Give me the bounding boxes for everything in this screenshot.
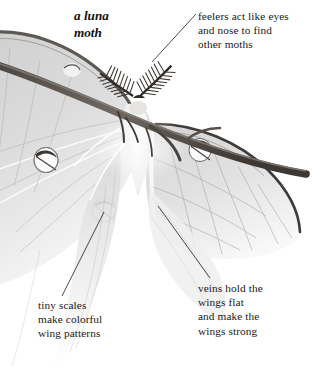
callout-feelers: feelers act like eyes and nose to find o… bbox=[198, 9, 289, 52]
callout-veins: veins hold the wings flat and make the w… bbox=[198, 281, 263, 338]
figure-title: a luna moth bbox=[74, 8, 109, 41]
callout-tiny-scales: tiny scales make colorful wing patterns bbox=[38, 298, 102, 341]
illustration-figure: a luna moth feelers act like eyes and no… bbox=[0, 0, 323, 376]
